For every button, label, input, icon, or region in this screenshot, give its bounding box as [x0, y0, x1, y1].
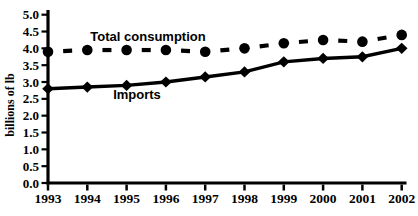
x-tick-label: 1995 [113, 191, 140, 206]
chart-canvas: 0.00.51.01.52.02.53.03.54.04.55.01993199… [0, 0, 418, 216]
imports-marker [82, 81, 94, 92]
x-tick-label: 1993 [35, 191, 62, 206]
total-consumption-marker [43, 46, 54, 57]
y-tick-label: 0.0 [23, 176, 39, 191]
y-tick-label: 1.5 [23, 125, 40, 140]
y-tick-label: 1.0 [23, 142, 39, 157]
imports-marker [160, 76, 172, 87]
total-consumption-marker [318, 35, 329, 46]
series-label-imports: Imports [113, 87, 161, 102]
x-tick-label: 1999 [270, 191, 297, 206]
y-tick-label: 2.0 [23, 108, 39, 123]
x-tick-label: 2002 [388, 191, 415, 206]
imports-marker [239, 66, 251, 77]
total-consumption-dash [220, 50, 229, 51]
y-tick-label: 5.0 [23, 7, 39, 22]
total-consumption-marker [200, 46, 211, 57]
y-tick-label: 3.0 [23, 75, 39, 90]
x-tick-label: 1994 [74, 191, 101, 206]
imports-marker [317, 53, 329, 64]
y-tick-label: 0.5 [23, 159, 40, 174]
y-tick-label: 4.0 [23, 41, 39, 56]
imports-marker [42, 83, 54, 94]
y-tick-label: 2.5 [23, 91, 40, 106]
imports-marker [357, 51, 369, 62]
total-consumption-marker [82, 45, 93, 56]
y-tick-label: 3.5 [23, 58, 40, 73]
total-consumption-dash [260, 45, 269, 46]
x-tick-label: 1996 [152, 191, 179, 206]
total-consumption-marker [161, 45, 172, 56]
total-consumption-marker [279, 38, 290, 49]
series-label-total-consumption: Total consumption [90, 29, 205, 44]
x-tick-label: 1998 [231, 191, 258, 206]
total-consumption-dash [299, 41, 308, 42]
y-tick-label: 4.5 [23, 24, 40, 39]
y-axis-title: billions of lb [3, 73, 18, 136]
total-consumption-marker [121, 45, 132, 56]
imports-marker [199, 71, 211, 82]
x-tick-label: 1997 [192, 191, 219, 206]
x-tick-label: 2000 [310, 191, 337, 206]
total-consumption-marker [396, 30, 407, 41]
imports-marker [278, 56, 290, 67]
x-tick-label: 2001 [349, 191, 376, 206]
total-consumption-marker [239, 43, 250, 54]
total-consumption-dash [378, 38, 387, 40]
total-consumption-marker [357, 36, 368, 47]
imports-line [48, 48, 402, 88]
imports-marker [396, 43, 408, 54]
line-chart: 0.00.51.01.52.02.53.03.54.04.55.01993199… [0, 0, 418, 216]
